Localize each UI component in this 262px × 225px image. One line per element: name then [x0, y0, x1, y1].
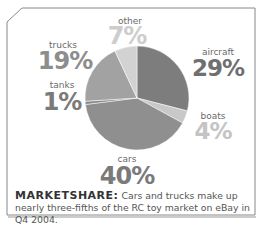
- slice-value-aircraft: 29%: [183, 57, 253, 80]
- slice-value-tanks: 1%: [37, 90, 87, 114]
- caption-heading: MARKETSHARE:: [15, 189, 119, 202]
- chart-caption: MARKETSHARE: Cars and trucks make up nea…: [15, 190, 255, 225]
- slice-value-boats: 4%: [183, 120, 243, 143]
- pie-chart: [85, 46, 189, 150]
- slice-value-other: 7%: [97, 24, 157, 48]
- slice-value-cars: 40%: [87, 164, 167, 188]
- slice-value-trucks: 19%: [30, 49, 100, 73]
